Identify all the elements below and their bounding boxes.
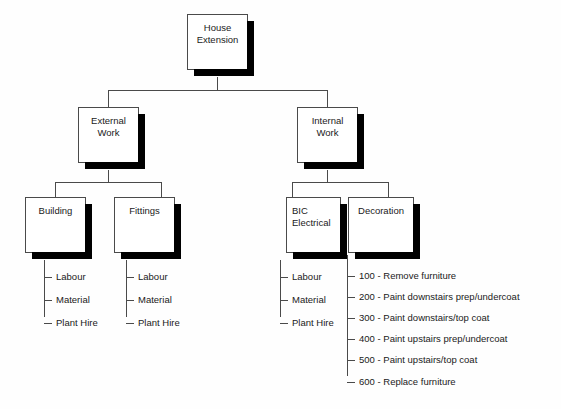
leaf-label: Material [138,294,172,306]
leaf-label: Labour [292,271,322,283]
connector-drop-fittings [161,182,162,197]
connector-drop-bic-electrical [292,182,293,197]
node-shadow-right [247,21,254,76]
wbs-node-label: Fittings [115,205,174,217]
connector-drop-building [55,182,56,197]
wbs-node-bic-electrical[interactable]: BIC Electrical [286,197,341,253]
node-shadow-bottom [194,69,254,76]
leaf-label: Material [292,294,326,306]
connector-drop-external-work [108,90,109,107]
node-shadow-right [138,114,145,169]
connector-external-work-stem [108,170,109,182]
node-shadow-right [340,204,347,259]
leaf-stub [347,318,355,319]
node-shadow-bottom [355,252,420,259]
wbs-node-building[interactable]: Building [25,197,86,253]
connector-drop-internal-work [327,90,328,107]
leaf-stub [126,300,134,301]
node-shadow-right [357,114,364,169]
leaf-stub [347,297,355,298]
wbs-node-fittings[interactable]: Fittings [114,197,175,253]
leaf-stub [280,300,288,301]
node-shadow-right [85,204,92,259]
node-shadow-right [413,204,420,259]
leaf-stub [44,323,52,324]
wbs-node-external-work[interactable]: External Work [78,107,139,163]
leaf-stub [280,323,288,324]
leaf-stub [347,276,355,277]
leaf-spine [126,260,127,317]
leaf-spine [280,260,281,317]
wbs-node-label: BIC Electrical [292,205,340,229]
node-shadow-bottom [121,252,181,259]
wbs-diagram: House Extension External Work Internal W… [0,0,561,409]
leaf-label: Material [56,294,90,306]
wbs-node-house-extension[interactable]: House Extension [187,14,248,70]
node-shadow-bottom [304,162,364,169]
leaf-spine [44,260,45,317]
leaf-stub [347,360,355,361]
connector-root-stem [217,77,218,90]
wbs-node-label: Decoration [349,205,413,217]
leaf-label: 200 - Paint downstairs prep/undercoat [359,291,520,303]
leaf-label: 600 - Replace furniture [359,376,456,388]
leaf-label: 400 - Paint upstairs prep/undercoat [359,333,507,345]
leaf-stub [347,382,355,383]
leaf-stub [126,323,134,324]
leaf-stub [44,277,52,278]
connector-drop-decoration [388,182,389,197]
wbs-node-label: Building [26,205,85,217]
wbs-node-label: House Extension [188,22,247,46]
leaf-stub [280,277,288,278]
leaf-label: Plant Hire [138,317,180,329]
leaf-stub [347,339,355,340]
node-shadow-bottom [293,252,347,259]
leaf-spine [347,255,348,376]
node-shadow-bottom [85,162,145,169]
leaf-label: Labour [138,271,168,283]
connector-internal-children-bus [292,182,388,183]
leaf-stub [126,277,134,278]
wbs-node-decoration[interactable]: Decoration [348,197,414,253]
wbs-node-internal-work[interactable]: Internal Work [297,107,358,163]
leaf-label: Plant Hire [56,317,98,329]
connector-external-children-bus [55,182,162,183]
node-shadow-bottom [32,252,92,259]
leaf-label: 300 - Paint downstairs/top coat [359,312,489,324]
connector-level1-bus [108,90,327,91]
leaf-label: Labour [56,271,86,283]
wbs-node-label: External Work [79,115,138,139]
leaf-label: Plant Hire [292,317,334,329]
node-shadow-right [174,204,181,259]
leaf-stub [44,300,52,301]
leaf-label: 500 - Paint upstairs/top coat [359,354,477,366]
wbs-node-label: Internal Work [298,115,357,139]
connector-internal-work-stem [327,170,328,182]
leaf-label: 100 - Remove furniture [359,270,456,282]
